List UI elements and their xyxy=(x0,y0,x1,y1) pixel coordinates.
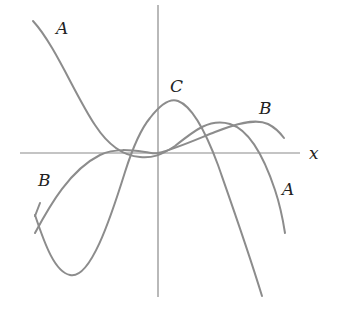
curve-a xyxy=(33,21,285,233)
x-axis-label: x xyxy=(309,143,319,163)
label-b-right: B xyxy=(258,98,272,118)
curve-c xyxy=(35,100,262,296)
curve-b xyxy=(35,122,284,233)
crossing-tick xyxy=(35,203,40,216)
label-a-right: A xyxy=(280,179,294,199)
label-c-top: C xyxy=(170,76,183,96)
graph-canvas: A C B x B A xyxy=(0,0,337,312)
label-a-top: A xyxy=(54,18,68,38)
function-graph-figure: A C B x B A xyxy=(0,0,337,312)
label-b-left: B xyxy=(37,170,51,190)
